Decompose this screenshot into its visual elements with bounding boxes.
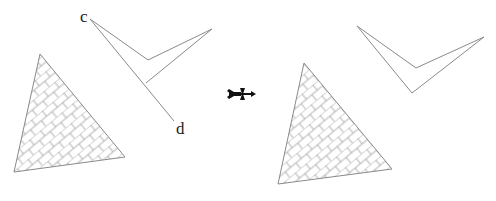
chevron-before xyxy=(90,19,212,83)
fletched-arrow-icon xyxy=(227,88,256,100)
diagram-canvas xyxy=(0,0,496,201)
chevron-after xyxy=(357,26,484,93)
label-d: d xyxy=(176,120,185,137)
triangle-before xyxy=(0,40,140,180)
label-c: c xyxy=(80,8,88,25)
triangle-after xyxy=(270,55,400,190)
